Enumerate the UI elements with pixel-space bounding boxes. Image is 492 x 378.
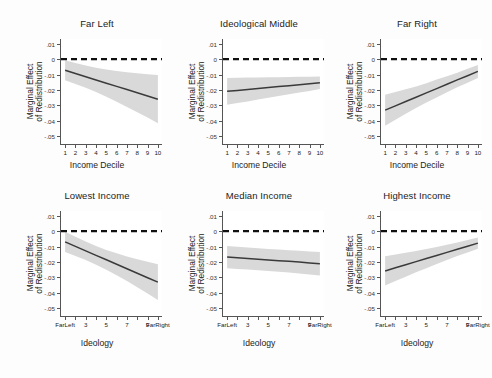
x-tick-mark [395,317,396,320]
x-axis-title: Income Decile [344,160,490,170]
y-tick-mark [219,308,222,309]
y-tick-mark [377,105,380,106]
x-tick-mark [416,317,417,320]
y-tick-mark [377,44,380,45]
x-tick-label: 4 [94,150,97,157]
plot-area [381,39,482,144]
x-tick-mark [437,145,438,148]
x-tick-mark [75,317,76,320]
x-tick-label: FarLeft [375,322,395,329]
x-tick-label: FarRight [308,322,332,329]
y-tick-mark [377,90,380,91]
x-tick-label: 3 [84,322,87,329]
y-tick-mark [219,277,222,278]
plot-area [381,211,482,316]
x-tick-mark [268,145,269,148]
x-tick-label: 3 [246,150,249,157]
panel-title: Ideological Middle [186,18,332,29]
y-axis-line [60,211,61,316]
x-tick-mark [426,145,427,148]
x-tick-label: FarRight [146,322,170,329]
x-tick-mark [416,145,417,148]
x-tick-mark [127,317,128,320]
confidence-band [385,65,478,126]
y-tick-mark [377,75,380,76]
x-tick-mark [289,317,290,320]
y-axis-title-line2: of Redistribution [355,39,364,144]
confidence-band [385,237,478,285]
y-tick-mark [57,136,60,137]
y-tick-mark [57,44,60,45]
plot-area [223,39,324,144]
y-axis-title: Marginal Effectof Redistribution [346,211,365,316]
x-tick-label: 5 [105,322,108,329]
x-tick-mark [96,145,97,148]
y-tick-mark [57,247,60,248]
y-tick-mark [377,231,380,232]
x-tick-mark [237,145,238,148]
y-tick-mark [57,216,60,217]
x-tick-mark [320,145,321,148]
x-tick-label: 10 [316,150,323,157]
x-tick-label: 2 [74,150,77,157]
x-tick-mark [406,317,407,320]
x-axis-title: Income Decile [186,160,332,170]
marginal-effect-line [385,71,478,110]
x-tick-label: FarLeft [55,322,75,329]
y-tick-mark [219,216,222,217]
x-tick-mark [106,145,107,148]
y-tick-mark [377,136,380,137]
x-tick-mark [137,145,138,148]
panel-title: Highest Income [344,190,490,201]
plot-graphics [381,39,482,144]
x-tick-mark [148,145,149,148]
x-axis-title: Ideology [344,338,490,348]
plot-graphics [223,211,324,316]
y-axis-line [222,39,223,144]
x-tick-mark [158,317,159,320]
y-tick-mark [57,262,60,263]
plot-graphics [381,211,482,316]
y-tick-mark [219,105,222,106]
x-tick-mark [117,145,118,148]
x-tick-label: FarRight [466,322,490,329]
x-tick-mark [137,317,138,320]
x-tick-mark [237,317,238,320]
x-tick-label: 3 [246,322,249,329]
y-tick-mark [377,277,380,278]
y-axis-title: Marginal Effectof Redistribution [26,211,45,316]
y-tick-mark [219,136,222,137]
x-tick-mark [395,145,396,148]
panel-title: Median Income [186,190,332,201]
y-tick-mark [377,216,380,217]
x-tick-mark [299,145,300,148]
x-tick-mark [457,145,458,148]
panel-bottom-left: Lowest Income.010-.01-.02-.03-.04-.05Far… [24,190,170,360]
x-tick-mark [148,317,149,320]
x-tick-mark [227,317,228,320]
plot-graphics [61,39,162,144]
x-tick-mark [468,317,469,320]
x-tick-mark [385,145,386,148]
x-tick-label: 5 [267,150,270,157]
x-tick-label: 7 [125,150,128,157]
x-tick-mark [127,145,128,148]
panel-title: Far Right [344,18,490,29]
x-tick-mark [447,145,448,148]
y-tick-mark [57,231,60,232]
y-axis-title-line2: of Redistribution [35,39,44,144]
x-tick-label: 2 [236,150,239,157]
y-tick-mark [377,247,380,248]
y-tick-mark [57,293,60,294]
y-tick-mark [219,293,222,294]
plot-area [61,39,162,144]
y-axis-title: Marginal Effectof Redistribution [26,39,45,144]
y-tick-mark [377,59,380,60]
x-tick-mark [158,145,159,148]
y-tick-mark [219,247,222,248]
x-tick-mark [86,317,87,320]
y-tick-mark [377,121,380,122]
y-axis-title-line2: of Redistribution [197,211,206,316]
y-tick-mark [377,308,380,309]
x-tick-label: 3 [84,150,87,157]
